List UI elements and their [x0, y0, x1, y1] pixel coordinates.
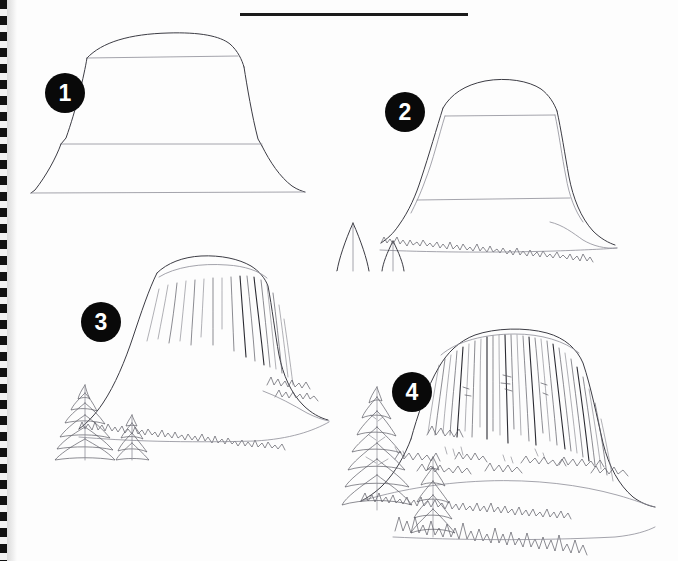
step-badge-1[interactable]: 1 [45, 73, 85, 113]
binding-shadow [7, 0, 17, 561]
step-3-drawing [35, 245, 345, 460]
step-badge-3[interactable]: 3 [81, 302, 121, 342]
step-badge-2[interactable]: 2 [385, 92, 425, 132]
spiral-binding [0, 0, 7, 561]
sketchbook-page: 1 2 3 4 [0, 0, 678, 561]
horizontal-rule [240, 13, 468, 16]
step-4-drawing [335, 325, 665, 545]
step-2-drawing [325, 45, 655, 270]
step-1-drawing [30, 20, 320, 210]
step-badge-4[interactable]: 4 [392, 372, 432, 412]
